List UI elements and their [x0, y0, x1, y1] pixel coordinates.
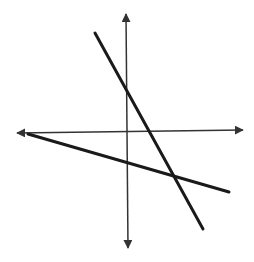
y-axis	[126, 14, 128, 248]
coordinate-plane-diagram	[0, 0, 254, 262]
shallow-line	[28, 134, 229, 192]
x-axis	[17, 130, 243, 133]
